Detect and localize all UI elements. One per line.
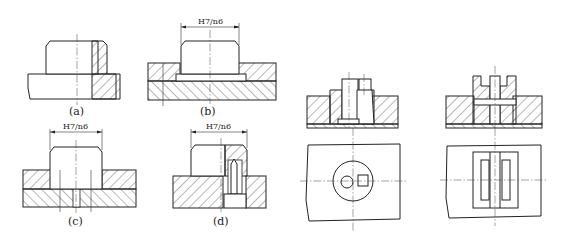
view-label-a: (a) xyxy=(69,105,84,118)
view-label-c: (c) xyxy=(68,215,83,228)
fit-label-d: H7/n6 xyxy=(206,122,231,131)
locating-boss xyxy=(191,145,225,176)
view-a: (a) xyxy=(28,34,120,118)
view-label-b: (b) xyxy=(200,105,216,118)
diamond-pin-plan xyxy=(358,175,368,186)
round-pin xyxy=(342,79,358,124)
fit-label-b: H7/n6 xyxy=(198,17,223,26)
sectioned-part xyxy=(92,41,120,99)
round-pin-plan xyxy=(341,176,353,188)
view-f xyxy=(440,66,548,226)
view-e xyxy=(300,72,406,232)
screw-head xyxy=(224,194,246,208)
view-c: H7/n6 (c) xyxy=(23,122,136,228)
fit-label-c: H7/n6 xyxy=(63,122,88,131)
view-b: H7/n6 (b) xyxy=(148,17,276,118)
technical-drawing: (a) H7/n6 (b) H7/n6 xyxy=(0,0,561,250)
view-d: H7/n6 (d) xyxy=(173,122,266,228)
flange xyxy=(176,74,246,81)
plan-plate xyxy=(446,145,541,218)
view-label-d: (d) xyxy=(213,215,229,228)
locating-boss xyxy=(46,41,98,74)
